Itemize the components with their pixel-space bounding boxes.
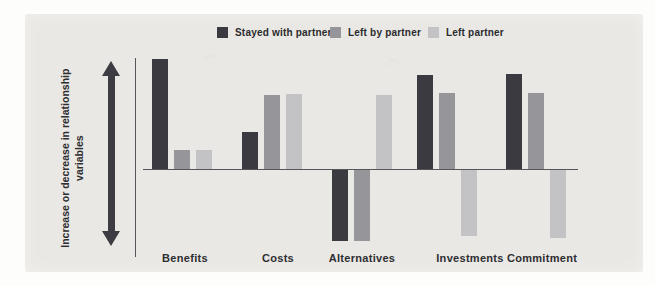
arrow-down-icon <box>102 231 120 246</box>
chart-legend: Stayed with partnerLeft by partnerLeft p… <box>0 27 655 41</box>
bar-commitment-series-2 <box>550 170 566 238</box>
bar-benefits-series-0 <box>152 59 168 169</box>
legend-label: Left partner <box>446 27 504 38</box>
legend-swatch-icon <box>428 27 439 38</box>
legend-item-2: Left partner <box>428 27 504 38</box>
bar-costs-series-2 <box>286 94 302 169</box>
bar-investments-series-2 <box>461 170 477 236</box>
legend-item-1: Left by partner <box>330 27 421 38</box>
bar-investments-series-0 <box>417 75 433 169</box>
scan-smudge: ~''~ <box>203 52 218 63</box>
scan-smudge: ,''~, <box>386 56 400 67</box>
bar-benefits-series-2 <box>196 150 212 169</box>
legend-item-0: Stayed with partner <box>217 27 332 38</box>
chart-figure: Stayed with partnerLeft by partnerLeft p… <box>0 0 655 286</box>
bar-benefits-series-1 <box>174 150 190 169</box>
legend-label: Stayed with partner <box>235 27 332 38</box>
bar-costs-series-1 <box>264 95 280 169</box>
category-label-investments: Investments <box>436 252 504 264</box>
y-axis-line <box>135 58 136 257</box>
category-label-costs: Costs <box>262 252 294 264</box>
double-arrow-shaft <box>108 73 115 234</box>
category-label-alternatives: Alternatives <box>329 252 396 264</box>
legend-swatch-icon <box>217 27 228 38</box>
legend-swatch-icon <box>330 27 341 38</box>
y-axis-label: Increase or decrease in relationship var… <box>58 60 86 256</box>
bar-investments-series-1 <box>439 93 455 169</box>
bar-commitment-series-1 <box>528 93 544 169</box>
bar-alternatives-series-0 <box>332 170 348 241</box>
bar-costs-series-0 <box>242 132 258 169</box>
category-label-commitment: Commitment <box>507 252 577 264</box>
category-label-benefits: Benefits <box>162 252 208 264</box>
legend-label: Left by partner <box>348 27 421 38</box>
bar-alternatives-series-2 <box>376 95 392 169</box>
bar-commitment-series-0 <box>506 74 522 169</box>
bar-alternatives-series-1 <box>354 170 370 241</box>
